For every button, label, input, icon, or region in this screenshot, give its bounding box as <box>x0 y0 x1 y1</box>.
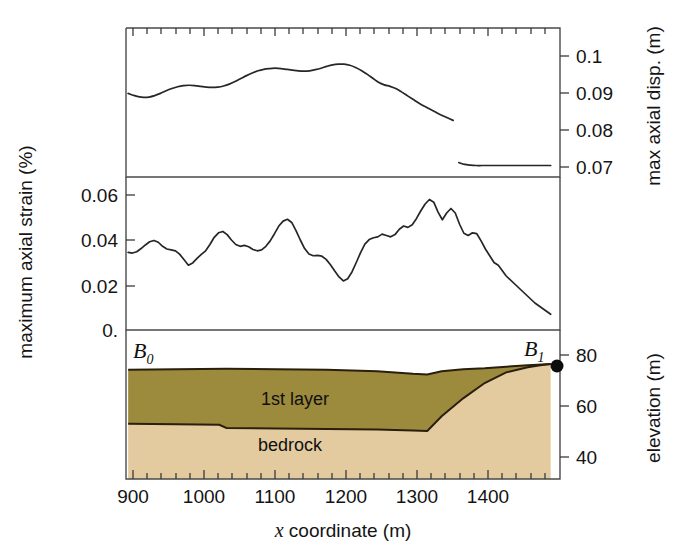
layer-label-bedrock: bedrock <box>258 435 323 455</box>
middle-panel-frame <box>126 177 560 330</box>
panel-max-axial-displacement: 0.1 0.09 0.08 0.07 <box>126 28 613 178</box>
figure-root: 0.1 0.09 0.08 0.07 0.06 0.04 0.02 0. <box>0 0 686 557</box>
middle-panel-left-ticks <box>126 195 135 286</box>
middle-tick-label-2: 0.02 <box>81 276 118 297</box>
max-axial-displacement-tail-curve <box>459 163 551 166</box>
layer-label-first-layer: 1st layer <box>261 389 329 409</box>
middle-tick-label-3: 0. <box>102 320 118 341</box>
elevation-tick-label-1: 60 <box>576 396 597 417</box>
elevation-tick-label-2: 40 <box>576 447 597 468</box>
profile-figure: 0.1 0.09 0.08 0.07 0.06 0.04 0.02 0. <box>0 0 686 557</box>
maximum-axial-strain-curve <box>128 200 551 315</box>
x-tick-label-5: 1400 <box>467 486 509 507</box>
boundary-marker-dot-b1 <box>551 360 564 373</box>
x-axis-labels: 900 1000 1100 1200 1300 1400 <box>117 486 509 507</box>
top-panel-top-ticks <box>133 28 545 36</box>
right-bottom-axis-title: elevation (m) <box>643 353 664 463</box>
middle-tick-label-1: 0.04 <box>81 230 118 251</box>
x-axis-title: x coordinate (m) <box>274 519 412 541</box>
top-tick-label-2: 0.08 <box>576 120 613 141</box>
elevation-tick-label-0: 80 <box>576 345 597 366</box>
panel-maximum-axial-strain: 0.06 0.04 0.02 0. <box>81 177 560 341</box>
middle-tick-label-0: 0.06 <box>81 185 118 206</box>
x-tick-label-1: 1000 <box>183 486 225 507</box>
panel-cross-section: 80 60 40 1st layer bedrock B0 B1 <box>126 330 597 479</box>
x-tick-label-3: 1200 <box>325 486 367 507</box>
boundary-label-b0: B0 <box>133 338 153 367</box>
x-tick-label-0: 900 <box>117 486 149 507</box>
right-top-axis-title: max axial disp. (m) <box>643 26 664 185</box>
x-tick-label-4: 1300 <box>396 486 438 507</box>
x-tick-label-2: 1100 <box>255 486 296 507</box>
top-tick-label-1: 0.09 <box>576 83 613 104</box>
max-axial-displacement-curve <box>128 64 453 120</box>
left-axis-title: maximum axial strain (%) <box>15 145 36 358</box>
boundary-label-b1: B1 <box>524 336 544 365</box>
top-tick-label-3: 0.07 <box>576 157 613 178</box>
top-tick-label-0: 0.1 <box>576 46 602 67</box>
top-panel-right-ticks <box>560 56 569 167</box>
top-panel-frame <box>126 28 560 177</box>
